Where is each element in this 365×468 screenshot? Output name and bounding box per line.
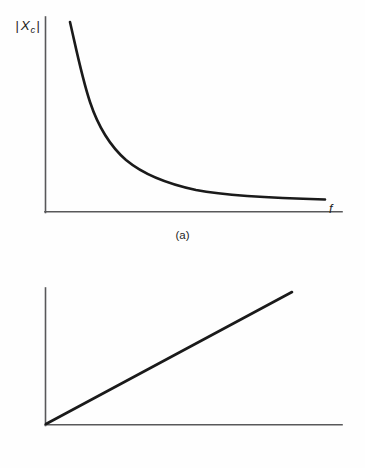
abs-bar-open: | — [14, 18, 21, 33]
reactance-symbol: X — [21, 18, 30, 33]
abs-bar-close: | — [35, 18, 42, 33]
panel-a-x-axis-label: f — [329, 203, 332, 216]
panel-a-capacitive-reactance: |Xc| f (a) — [0, 0, 365, 234]
panel-b-inductive-reactance-line — [46, 292, 292, 424]
reactance-versus-frequency-figure: |Xc| f (a) XL f (b) — [0, 0, 365, 468]
reactance-subscript: c — [30, 24, 35, 35]
panel-a-capacitive-reactance-curve — [70, 22, 325, 200]
panel-b-plot — [0, 234, 365, 468]
panel-b-inductive-reactance: XL f (b) — [0, 234, 365, 468]
panel-a-y-axis-label: |Xc| — [14, 19, 42, 33]
panel-a-plot — [0, 0, 365, 234]
